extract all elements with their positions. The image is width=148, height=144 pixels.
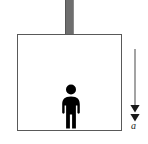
person-icon (60, 84, 82, 129)
physics-figure-elevator: a (0, 0, 148, 144)
suspension-cable (65, 0, 74, 35)
acceleration-label: a (131, 120, 136, 131)
